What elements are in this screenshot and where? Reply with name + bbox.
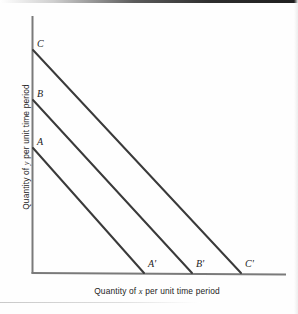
y-axis-title-prefix: Quantity of [21,165,31,210]
budget-line-a [33,148,144,273]
y-axis-title: Quantity of y per unit time period [21,47,31,247]
y-axis-title-variable: y [22,161,31,165]
budget-line-b [33,100,192,273]
curve-label-b-end: B' [196,258,204,269]
curve-label-b-start: B [37,88,43,99]
x-axis-title-suffix: per unit time period [143,286,220,296]
x-axis-title-prefix: Quantity of [94,286,139,296]
curve-label-a-end: A' [148,258,156,269]
budget-line-c [33,50,241,273]
curve-label-c-start: C [37,38,44,49]
y-axis-title-suffix: per unit time period [21,84,31,161]
x-axis-line [32,273,287,275]
curve-label-c-end: C' [245,258,254,269]
curve-label-a-start: A [37,136,43,147]
figure-canvas: A B C A' B' C' Quantity of x per unit ti… [0,0,298,314]
x-axis-title: Quantity of x per unit time period [52,286,262,296]
